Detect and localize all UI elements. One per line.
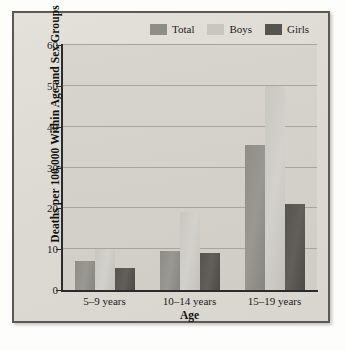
x-tick-label-3: 15–19 years: [232, 295, 317, 307]
bar-total-group-2: [160, 251, 180, 290]
legend-item-total: Total: [150, 24, 194, 35]
bar-girls-group-2: [200, 253, 220, 290]
x-tick-label-1: 5–9 years: [62, 295, 147, 307]
y-tick-label-0: 0: [36, 285, 58, 296]
y-tick-mark-0: [56, 290, 61, 291]
bar-boys-group-1: [95, 249, 115, 290]
legend-swatch-girls: [265, 24, 282, 35]
bar-total-group-3: [245, 145, 265, 290]
y-tick-mark-60: [56, 45, 61, 46]
legend-swatch-boys: [207, 24, 224, 35]
legend-label-girls: Girls: [287, 24, 309, 35]
y-axis-line: [61, 44, 63, 291]
gridline-60: [62, 44, 317, 45]
legend-label-total: Total: [172, 24, 194, 35]
bar-boys-group-2: [180, 212, 200, 290]
y-tick-mark-30: [56, 168, 61, 169]
bar-total-group-1: [75, 261, 95, 290]
legend-label-boys: Boys: [229, 24, 252, 35]
x-axis-line: [61, 290, 318, 292]
y-tick-mark-40: [56, 127, 61, 128]
plot-area: [62, 45, 317, 290]
legend-swatch-total: [150, 24, 167, 35]
x-axis-title: Age: [62, 309, 317, 321]
bar-boys-group-3: [265, 86, 285, 290]
chart-page: TotalBoysGirls 0102030405060 Deaths per …: [0, 0, 346, 350]
bar-girls-group-3: [285, 204, 305, 290]
legend-item-girls: Girls: [265, 24, 309, 35]
y-axis-title: Deaths per 100,000 Within Age and Sex Gr…: [49, 0, 61, 249]
y-tick-mark-20: [56, 208, 61, 209]
legend-item-boys: Boys: [207, 24, 252, 35]
y-tick-mark-10: [56, 249, 61, 250]
bar-girls-group-1: [115, 268, 135, 290]
chart-legend: TotalBoysGirls: [150, 21, 309, 37]
y-tick-mark-50: [56, 86, 61, 87]
x-tick-label-2: 10–14 years: [147, 295, 232, 307]
